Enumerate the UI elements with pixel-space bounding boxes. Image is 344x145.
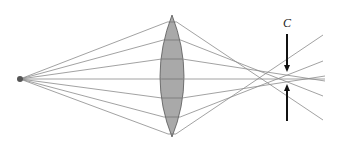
marker-label-c: C bbox=[283, 17, 291, 29]
refracted-ray bbox=[177, 22, 323, 120]
point-source-icon bbox=[17, 76, 23, 82]
incident-ray bbox=[20, 79, 164, 117]
incident-ray bbox=[20, 59, 162, 79]
incident-ray bbox=[20, 79, 162, 98]
bottom-arrow-head-icon bbox=[284, 84, 290, 91]
incident-ray bbox=[20, 79, 168, 134]
top-arrow-head-icon bbox=[284, 65, 290, 72]
lens-diagram bbox=[0, 0, 344, 145]
refracted-rays bbox=[176, 22, 325, 134]
incident-ray bbox=[20, 22, 167, 79]
refracted-ray bbox=[182, 59, 325, 81]
incident-rays bbox=[20, 22, 168, 134]
refracted-ray bbox=[176, 35, 323, 134]
converging-lens bbox=[160, 15, 184, 137]
incident-ray bbox=[20, 40, 163, 79]
focus-marker-arrows bbox=[284, 34, 290, 121]
